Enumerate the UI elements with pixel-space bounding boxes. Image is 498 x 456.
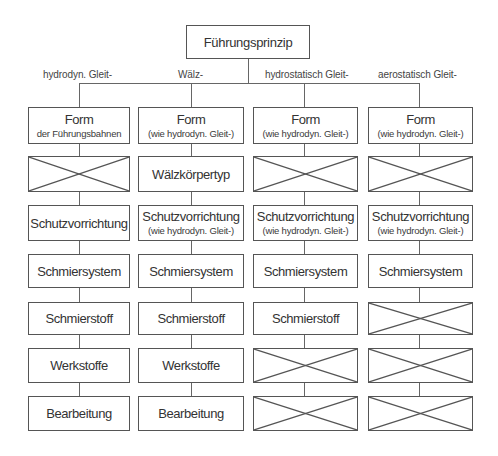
node-main-label: Schmiersystem <box>37 264 121 279</box>
node-main-label: Schutzvorrichtung <box>30 216 127 231</box>
node-not-applicable <box>253 156 358 192</box>
branch-bus-line <box>79 83 420 84</box>
node-main-label: Schmierstoff <box>45 311 112 326</box>
node-main-label: Werkstoffe <box>162 358 220 373</box>
node-main-label: Form <box>406 112 435 127</box>
node-bearbeitung: Bearbeitung <box>138 396 244 431</box>
root-connector <box>248 59 249 83</box>
node-main-label: Schutzvorrichtung <box>372 209 469 224</box>
node-sub-label: (wie hydrodyn. Gleit-) <box>148 127 234 140</box>
node-form: Form der Führungsbahnen <box>28 107 130 144</box>
cross-icon <box>254 397 357 430</box>
node-not-applicable <box>368 302 473 335</box>
node-schmiersystem: Schmiersystem <box>138 254 244 288</box>
node-main-label: Bearbeitung <box>46 406 112 421</box>
root-node-fuehrungsprinzip: Führungsprinzip <box>186 25 310 59</box>
node-main-label: Schmierstoff <box>272 311 339 326</box>
node-werkstoffe: Werkstoffe <box>28 348 130 383</box>
node-main-label: Schmiersystem <box>149 264 233 279</box>
cross-icon <box>369 349 472 382</box>
node-main-label: Schmiersystem <box>379 264 463 279</box>
cross-icon <box>254 157 357 191</box>
branch-label-hydrostatisch: hydrostatisch Gleit- <box>265 69 349 80</box>
node-main-label: Schmierstoff <box>157 311 224 326</box>
node-main-label: Werkstoffe <box>50 358 108 373</box>
node-main-label: Schutzvorrichtung <box>142 209 239 224</box>
cross-icon <box>29 157 129 191</box>
node-not-applicable <box>253 396 358 431</box>
node-main-label: Schmiersystem <box>264 264 348 279</box>
root-label: Führungsprinzip <box>204 35 293 50</box>
node-main-label: Wälzkörpertyp <box>152 167 230 182</box>
node-sub-label: (wie hydrodyn. Gleit-) <box>378 224 464 237</box>
node-not-applicable <box>368 156 473 192</box>
node-form: Form (wie hydrodyn. Gleit-) <box>368 107 473 144</box>
node-form: Form (wie hydrodyn. Gleit-) <box>138 107 244 144</box>
node-werkstoffe: Werkstoffe <box>138 348 244 383</box>
node-sub-label: (wie hydrodyn. Gleit-) <box>148 224 234 237</box>
node-schutzvorrichtung: Schutzvorrichtung (wie hydrodyn. Gleit-) <box>138 205 244 241</box>
node-schmiersystem: Schmiersystem <box>368 254 473 288</box>
node-form: Form (wie hydrodyn. Gleit-) <box>253 107 358 144</box>
node-main-label: Form <box>291 112 320 127</box>
node-waelzkoerpertyp: Wälzkörpertyp <box>138 156 244 192</box>
node-schmierstoff: Schmierstoff <box>253 302 358 335</box>
node-not-applicable <box>28 156 130 192</box>
branch-label-hydrodyn: hydrodyn. Gleit- <box>43 69 112 80</box>
node-sub-label: (wie hydrodyn. Gleit-) <box>263 224 349 237</box>
node-schmierstoff: Schmierstoff <box>138 302 244 335</box>
branch-label-aerostatisch: aerostatisch Gleit- <box>378 69 457 80</box>
node-schutzvorrichtung: Schutzvorrichtung (wie hydrodyn. Gleit-) <box>368 205 473 241</box>
node-not-applicable <box>253 348 358 383</box>
node-main-label: Form <box>65 112 94 127</box>
node-main-label: Form <box>177 112 206 127</box>
node-schutzvorrichtung: Schutzvorrichtung <box>28 205 130 241</box>
node-schmiersystem: Schmiersystem <box>28 254 130 288</box>
node-main-label: Bearbeitung <box>158 406 224 421</box>
cross-icon <box>254 349 357 382</box>
node-sub-label: (wie hydrodyn. Gleit-) <box>378 127 464 140</box>
node-schutzvorrichtung: Schutzvorrichtung (wie hydrodyn. Gleit-) <box>253 205 358 241</box>
cross-icon <box>369 397 472 430</box>
node-sub-label: (wie hydrodyn. Gleit-) <box>263 127 349 140</box>
cross-icon <box>369 157 472 191</box>
node-schmiersystem: Schmiersystem <box>253 254 358 288</box>
node-not-applicable <box>368 396 473 431</box>
node-main-label: Schutzvorrichtung <box>257 209 354 224</box>
node-bearbeitung: Bearbeitung <box>28 396 130 431</box>
node-not-applicable <box>368 348 473 383</box>
cross-icon <box>369 303 472 334</box>
node-sub-label: der Führungsbahnen <box>37 127 122 140</box>
branch-label-waelz: Wälz- <box>178 69 203 80</box>
node-schmierstoff: Schmierstoff <box>28 302 130 335</box>
